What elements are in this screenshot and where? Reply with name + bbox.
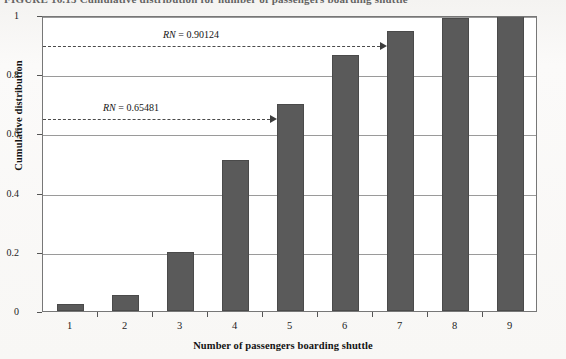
y-tick-mark (37, 75, 42, 76)
x-tick-mark (262, 312, 263, 317)
bar-7 (387, 31, 414, 311)
y-tick-mark (37, 194, 42, 195)
figure-caption-text: FIGURE 16.15 Cumulative distribution for… (4, 0, 408, 5)
x-tick-label-1: 1 (58, 320, 82, 331)
y-tick-mark (37, 312, 42, 313)
x-axis-title: Number of passengers boarding shuttle (0, 340, 566, 351)
y-tick-mark (37, 253, 42, 254)
x-tick-label-8: 8 (443, 320, 467, 331)
bar-9 (497, 17, 524, 311)
annotation-arrowhead-2 (270, 115, 277, 123)
bar-3 (167, 252, 194, 311)
plot-inner: RN = 0.90124RN = 0.65481 (43, 17, 536, 311)
x-tick-label-9: 9 (498, 320, 522, 331)
x-tick-mark (152, 312, 153, 317)
y-tick-mark (37, 16, 42, 17)
x-tick-mark (97, 312, 98, 317)
bar-6 (332, 55, 359, 311)
x-tick-label-4: 4 (223, 320, 247, 331)
bar-1 (57, 304, 84, 311)
bar-5 (277, 104, 304, 311)
annotation-arrowhead-1 (380, 42, 387, 50)
x-tick-mark (207, 312, 208, 317)
bar-8 (442, 18, 469, 311)
x-tick-mark (482, 312, 483, 317)
annotation-line-1 (43, 46, 380, 47)
x-tick-label-6: 6 (333, 320, 357, 331)
plot-area: RN = 0.90124RN = 0.65481 (42, 16, 537, 312)
annotation-label-2: RN = 0.65481 (103, 102, 159, 113)
figure-caption-clipped: FIGURE 16.15 Cumulative distribution for… (0, 0, 566, 9)
bar-4 (222, 160, 249, 311)
x-tick-label-5: 5 (278, 320, 302, 331)
x-tick-mark (427, 312, 428, 317)
annotation-label-1: RN = 0.90124 (163, 29, 219, 40)
y-tick-label-0.2: 0.2 (0, 248, 19, 258)
annotation-line-2 (43, 119, 270, 120)
y-axis-title: Cumulative distribution (13, 16, 24, 216)
x-tick-label-7: 7 (388, 320, 412, 331)
x-tick-mark (317, 312, 318, 317)
y-tick-label-0: 0 (0, 307, 19, 317)
x-tick-mark (372, 312, 373, 317)
bar-2 (112, 295, 139, 311)
y-tick-mark (37, 134, 42, 135)
x-tick-label-3: 3 (168, 320, 192, 331)
x-tick-label-2: 2 (113, 320, 137, 331)
